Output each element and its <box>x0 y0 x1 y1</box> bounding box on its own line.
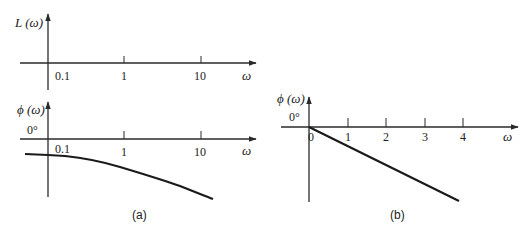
y-axis-label: L (ω) <box>14 15 43 30</box>
tick-label: 1 <box>121 145 127 159</box>
tick-label: 1 <box>345 130 351 144</box>
tick-label: 10 <box>194 69 206 83</box>
tick-label: 1 <box>121 69 127 83</box>
phase-curve <box>25 154 213 199</box>
panel-a-phase-plot: ϕ (ω) 0° 0.1 1 10 ω <box>17 102 256 199</box>
x-axis-label: ω <box>503 129 512 144</box>
tick-label: 0.1 <box>55 69 70 83</box>
x-axis-label: ω <box>242 143 251 158</box>
panel-b-phase-plot: ϕ (ω) 0° 0 1 2 3 4 ω <box>277 91 518 202</box>
panel-b-caption: (b) <box>390 208 405 222</box>
x-axis-label: ω <box>242 68 251 83</box>
figure-canvas: L (ω) 0.1 1 10 ω ϕ (ω) 0° 0.1 1 10 ω (a)… <box>0 0 529 234</box>
tick-label: 2 <box>383 130 389 144</box>
tick-label: 0.1 <box>55 142 70 156</box>
y-axis-label: ϕ (ω) <box>17 102 45 117</box>
tick-label: 0 <box>308 130 314 144</box>
panel-a-magnitude-plot: L (ω) 0.1 1 10 ω <box>14 14 256 90</box>
panel-a-caption: (a) <box>132 208 147 222</box>
zero-label: 0° <box>289 110 300 124</box>
tick-label: 10 <box>194 145 206 159</box>
tick-label: 4 <box>460 130 466 144</box>
zero-label: 0° <box>27 123 38 137</box>
y-axis-label: ϕ (ω) <box>277 91 305 106</box>
tick-label: 3 <box>422 130 428 144</box>
